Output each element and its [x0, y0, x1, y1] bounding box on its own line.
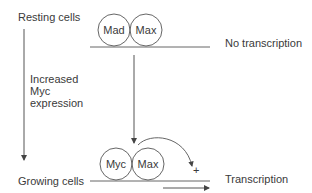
transcription-label: Transcription [225, 173, 288, 185]
expression-label: expression [30, 97, 83, 109]
resting-cells-label: Resting cells [18, 11, 80, 23]
no-transcription-label: No transcription [225, 37, 302, 49]
mad-label: Mad [99, 24, 129, 36]
max-label-top: Max [131, 24, 161, 36]
myc-label: Myc [30, 85, 50, 97]
growing-cells-label: Growing cells [18, 175, 84, 187]
increased-label: Increased [30, 73, 78, 85]
myc-protein-label: Myc [101, 158, 131, 170]
plus-sign: + [193, 164, 199, 176]
max-label-bottom: Max [133, 158, 163, 170]
